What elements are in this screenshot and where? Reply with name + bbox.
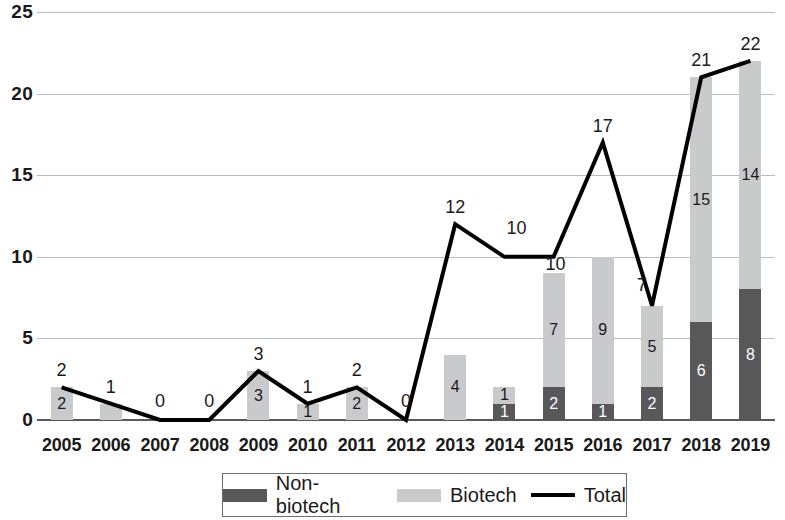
y-axis-tick-25: 25 bbox=[3, 1, 33, 23]
legend-swatch-icon bbox=[223, 489, 267, 502]
legend-line-icon bbox=[531, 493, 575, 497]
total-label-2007: 0 bbox=[155, 391, 165, 412]
y-axis-tick-5: 5 bbox=[3, 327, 33, 349]
total-label-2009: 3 bbox=[253, 344, 263, 365]
y-axis-tick-10: 10 bbox=[3, 246, 33, 268]
legend-label: Total bbox=[584, 484, 626, 507]
x-axis-tick-2012: 2012 bbox=[382, 435, 430, 456]
y-axis: 0510152025 bbox=[0, 12, 33, 420]
legend-item-total[interactable]: Total bbox=[531, 484, 626, 507]
x-axis-tick-2013: 2013 bbox=[431, 435, 479, 456]
x-axis-tick-2008: 2008 bbox=[185, 435, 233, 456]
total-label-2010: 1 bbox=[303, 377, 313, 398]
chart-legend: Non-biotechBiotechTotal bbox=[222, 473, 627, 517]
stacked-bar-line-chart: 0510152025 22005200620072008320091201022… bbox=[0, 0, 785, 520]
total-line bbox=[62, 61, 751, 420]
x-axis-tick-2006: 2006 bbox=[87, 435, 135, 456]
total-label-2017: 7 bbox=[637, 275, 647, 296]
total-label-2019: 22 bbox=[740, 34, 760, 55]
legend-item-non-biotech[interactable]: Non-biotech bbox=[223, 472, 383, 518]
x-axis-tick-2018: 2018 bbox=[677, 435, 725, 456]
x-axis-tick-2005: 2005 bbox=[38, 435, 86, 456]
legend-label: Biotech bbox=[450, 484, 517, 507]
x-axis-tick-2014: 2014 bbox=[480, 435, 528, 456]
total-label-2013: 12 bbox=[445, 197, 465, 218]
total-label-2008: 0 bbox=[204, 391, 214, 412]
total-line-layer bbox=[37, 12, 775, 420]
x-axis-tick-2009: 2009 bbox=[234, 435, 282, 456]
total-label-2006: 1 bbox=[106, 377, 116, 398]
total-label-2014: 10 bbox=[506, 218, 526, 239]
legend-item-biotech[interactable]: Biotech bbox=[397, 484, 517, 507]
legend-swatch-icon bbox=[397, 489, 441, 502]
y-axis-tick-15: 15 bbox=[3, 164, 33, 186]
x-axis-tick-2011: 2011 bbox=[333, 435, 381, 456]
total-label-2005: 2 bbox=[57, 360, 67, 381]
x-axis-tick-2017: 2017 bbox=[628, 435, 676, 456]
total-label-2015: 10 bbox=[546, 254, 566, 275]
total-label-2016: 17 bbox=[593, 116, 613, 137]
x-axis-tick-2016: 2016 bbox=[579, 435, 627, 456]
total-label-2012: 0 bbox=[401, 391, 411, 412]
total-label-2018: 21 bbox=[691, 50, 711, 71]
total-label-2011: 2 bbox=[352, 360, 362, 381]
y-axis-tick-20: 20 bbox=[3, 83, 33, 105]
y-axis-tick-0: 0 bbox=[3, 409, 33, 431]
x-axis-tick-2007: 2007 bbox=[136, 435, 184, 456]
x-axis-tick-2015: 2015 bbox=[530, 435, 578, 456]
x-axis-tick-2019: 2019 bbox=[726, 435, 774, 456]
legend-label: Non-biotech bbox=[276, 472, 383, 518]
x-axis-tick-2010: 2010 bbox=[284, 435, 332, 456]
